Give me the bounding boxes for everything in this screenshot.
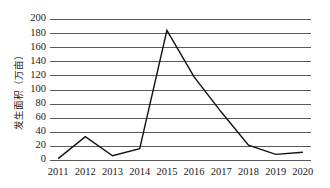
y-axis-tick-label: 60 [36, 111, 47, 122]
y-axis-tick-label: 20 [36, 139, 47, 150]
x-axis-tick-label: 2018 [238, 166, 259, 177]
data-series-group [58, 30, 303, 158]
y-axis-tick-label: 40 [36, 125, 47, 136]
y-axis-title: 发生面积（万亩） [13, 50, 24, 130]
line-chart: 020406080100120140160180200 201120122013… [0, 0, 330, 188]
x-axis-tick-label: 2019 [265, 166, 286, 177]
y-axis-tick-label: 100 [30, 83, 46, 94]
data-line-occurrence-area [58, 30, 303, 158]
y-axis-tick-label: 120 [30, 69, 46, 80]
x-axis-tick-label: 2017 [211, 166, 232, 177]
x-axis-tick-label: 2013 [102, 166, 123, 177]
y-axis-tick-label: 160 [30, 41, 46, 52]
x-axis-tick-label: 2012 [75, 166, 96, 177]
y-axis-tick-label: 140 [30, 55, 46, 66]
x-axis-tick-label: 2011 [48, 166, 69, 177]
y-axis-tick-labels: 020406080100120140160180200 [30, 12, 46, 164]
x-axis-tick-label: 2020 [292, 166, 313, 177]
x-axis-tick-labels: 2011201220132014201520162017201820192020 [48, 166, 314, 177]
chart-container: 020406080100120140160180200 201120122013… [0, 0, 330, 188]
y-axis-tick-label: 200 [30, 12, 46, 23]
y-axis-tick-label: 0 [41, 153, 46, 164]
x-axis-tick-label: 2016 [184, 166, 205, 177]
y-axis-tick-label: 180 [30, 27, 46, 38]
x-axis-tick-label: 2015 [156, 166, 177, 177]
y-axis-tick-label: 80 [36, 97, 47, 108]
x-axis-tick-label: 2014 [129, 166, 151, 177]
